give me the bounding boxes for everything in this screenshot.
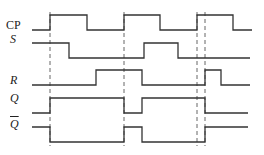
s-waveform [32, 43, 250, 58]
qbar-waveform [32, 127, 248, 142]
cp-waveform [32, 15, 252, 30]
qbar-label: Q [10, 118, 19, 130]
cp-label: CP [6, 19, 21, 31]
waveform-canvas [0, 0, 264, 155]
r-label: R [10, 74, 17, 86]
r-waveform [32, 70, 250, 85]
timing-diagram: CPSRQQ [0, 0, 264, 155]
q-label: Q [10, 92, 19, 104]
q-waveform [32, 98, 248, 113]
s-label: S [10, 33, 16, 45]
